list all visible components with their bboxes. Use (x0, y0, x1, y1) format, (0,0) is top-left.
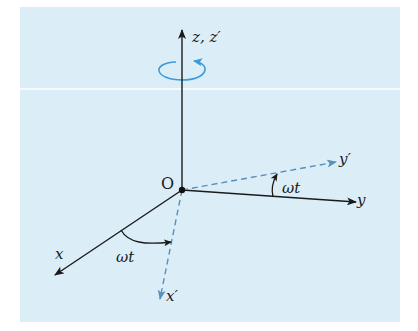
origin-label: O (161, 176, 174, 192)
y-prime-label: y′ (339, 152, 351, 167)
x-axis-label: x (55, 247, 63, 262)
y-axis-label: y (357, 193, 365, 208)
x-prime-axis (160, 190, 182, 299)
x-prime-label: x′ (166, 289, 178, 304)
angle-label-x: ωt (116, 250, 134, 265)
y-axis (182, 190, 356, 202)
angle-arc-x-xprime (121, 230, 171, 243)
angle-arc-y-yprime (272, 174, 277, 197)
origin-point (179, 187, 185, 193)
z-axis-label: z, z′ (192, 30, 221, 45)
angle-label-y: ωt (282, 181, 300, 196)
rotating-frame-diagram (0, 0, 418, 331)
y-prime-axis (182, 162, 336, 190)
